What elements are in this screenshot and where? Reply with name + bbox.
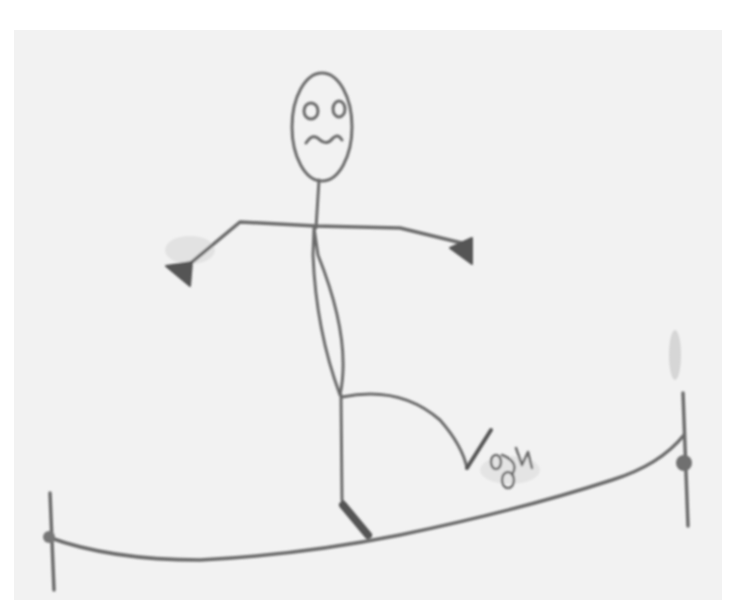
tightrope — [48, 435, 684, 560]
arms — [180, 222, 470, 272]
raised-leg — [342, 394, 467, 468]
head — [292, 73, 352, 181]
right-eye — [333, 101, 345, 117]
smudge — [669, 330, 681, 380]
neck — [316, 180, 319, 228]
left-knot — [43, 531, 55, 543]
body — [313, 228, 343, 395]
stick-figure-drawing — [0, 0, 741, 612]
left-hand — [166, 262, 192, 286]
standing-foot — [343, 505, 368, 535]
worried-mouth — [306, 136, 342, 143]
left-eye — [304, 103, 318, 119]
right-knot — [676, 455, 692, 471]
